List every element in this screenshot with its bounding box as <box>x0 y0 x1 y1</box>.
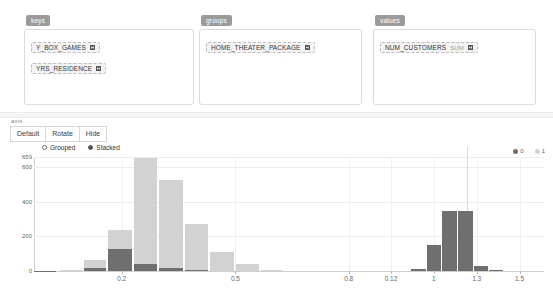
chart-container: Grouped Stacked 0 1 02004006006590.20.50… <box>0 140 553 301</box>
chart-bar[interactable] <box>210 252 233 271</box>
chart-bar[interactable] <box>108 229 131 271</box>
gridline-vertical <box>235 157 236 271</box>
radio-stacked-label: Stacked <box>96 144 120 151</box>
shelf-values-label: values <box>375 15 405 26</box>
remove-icon[interactable] <box>468 45 473 50</box>
radio-grouped-icon <box>42 145 47 150</box>
remove-icon[interactable] <box>96 66 101 71</box>
bar-segment-series-0[interactable] <box>489 270 502 271</box>
shelf-panels: keys Y_BOX_GAMES YRS_RESIDENCE groups <box>0 0 553 118</box>
bar-segment-series-0[interactable] <box>442 211 457 271</box>
chart-bar[interactable] <box>427 245 441 271</box>
remove-icon[interactable] <box>305 45 310 50</box>
bar-segment-series-1[interactable] <box>185 224 208 270</box>
shelf-keys-label: keys <box>26 15 50 26</box>
series-legend: 0 1 <box>513 148 545 154</box>
bar-segment-series-1[interactable] <box>210 252 233 271</box>
field-pill-num-customers[interactable]: NUM_CUSTOMERS SUM <box>380 42 478 53</box>
chart-bar[interactable] <box>442 211 457 271</box>
chart-bar[interactable] <box>411 269 425 271</box>
bar-segment-series-1[interactable] <box>236 264 259 271</box>
bar-segment-series-1[interactable] <box>84 260 106 268</box>
axis-toolbar: axis Default Rotate Hide <box>10 117 107 142</box>
x-axis-tick-label: 1.5 <box>515 275 524 283</box>
chart-bar[interactable] <box>134 158 157 271</box>
radio-grouped[interactable]: Grouped <box>42 144 75 151</box>
x-axis-tick-label: 1.3 <box>472 275 481 283</box>
remove-icon[interactable] <box>90 45 95 50</box>
chart-bar[interactable] <box>458 211 473 271</box>
x-axis-tick-mark <box>391 271 392 274</box>
radio-grouped-label: Grouped <box>50 144 75 151</box>
shelf-keys-dropzone[interactable]: Y_BOX_GAMES YRS_RESIDENCE <box>24 29 194 105</box>
chart-bar[interactable] <box>159 180 182 272</box>
field-pill-y-box-games[interactable]: Y_BOX_GAMES <box>31 42 100 53</box>
legend-swatch-0 <box>513 149 518 154</box>
x-axis-tick-mark <box>122 271 123 274</box>
chart-bar[interactable] <box>489 270 502 271</box>
axis-toolbar-label: axis <box>10 117 107 125</box>
bar-segment-series-0[interactable] <box>458 211 473 271</box>
bar-segment-series-0[interactable] <box>84 268 106 271</box>
shelf-keys: keys Y_BOX_GAMES YRS_RESIDENCE <box>24 9 194 105</box>
y-axis-tick-label: 659 <box>22 154 32 160</box>
chart-bar[interactable] <box>474 266 489 271</box>
field-pill-home-theater-package[interactable]: HOME_THEATER_PACKAGE <box>206 42 315 53</box>
x-axis-tick-label: 1 <box>432 275 436 283</box>
bar-segment-series-0[interactable] <box>427 245 441 271</box>
bar-segment-series-0[interactable] <box>159 268 182 271</box>
x-axis-tick-mark <box>477 271 478 274</box>
y-axis-tick-label: 200 <box>22 233 32 239</box>
y-axis-tick-label: 0 <box>29 268 32 274</box>
x-axis-tick-label: 0.2 <box>117 275 126 283</box>
chart-bar[interactable] <box>261 270 281 271</box>
shelf-values-pill-list: NUM_CUSTOMERS SUM <box>380 36 529 57</box>
field-pill-aggregation: SUM <box>450 45 464 51</box>
bar-segment-series-1[interactable] <box>108 230 131 250</box>
gridline-vertical <box>520 157 521 271</box>
field-pill-label: HOME_THEATER_PACKAGE <box>211 44 301 51</box>
gridline-vertical <box>349 157 350 271</box>
shelf-values: values NUM_CUSTOMERS SUM <box>373 9 536 105</box>
chart-bar[interactable] <box>60 270 82 271</box>
bar-segment-series-0[interactable] <box>185 270 208 271</box>
bar-segment-series-1[interactable] <box>261 270 281 271</box>
y-axis-tick-label: 600 <box>22 164 32 170</box>
bar-segment-series-0[interactable] <box>411 269 425 271</box>
shelf-groups-label: groups <box>201 15 232 26</box>
chart-bar[interactable] <box>185 224 208 271</box>
bar-segment-series-1[interactable] <box>134 158 157 264</box>
shelf-keys-pill-list: Y_BOX_GAMES <box>31 36 187 57</box>
gridline-vertical <box>391 157 392 271</box>
visualization-page: keys Y_BOX_GAMES YRS_RESIDENCE groups <box>0 0 553 301</box>
radio-stacked[interactable]: Stacked <box>88 144 120 151</box>
x-axis-tick-label: 0.5 <box>231 275 240 283</box>
plot-area: 02004006006590.20.50.80.1211.31.5 <box>34 157 544 271</box>
shelf-groups-dropzone[interactable]: HOME_THEATER_PACKAGE <box>199 29 362 105</box>
shelf-values-dropzone[interactable]: NUM_CUSTOMERS SUM <box>373 29 536 105</box>
chart-bar[interactable] <box>84 260 106 271</box>
radio-stacked-icon <box>88 145 93 150</box>
x-axis-tick-mark <box>349 271 350 274</box>
field-pill-label: NUM_CUSTOMERS <box>385 44 446 51</box>
gridline-vertical <box>477 157 478 271</box>
bar-segment-series-0[interactable] <box>134 264 157 271</box>
legend-swatch-1 <box>535 149 540 154</box>
shelf-keys-pill-list-2: YRS_RESIDENCE <box>31 57 187 78</box>
bar-segment-series-0[interactable] <box>474 266 489 271</box>
x-axis-tick-mark <box>520 271 521 274</box>
shelf-groups: groups HOME_THEATER_PACKAGE <box>199 9 362 105</box>
field-pill-yrs-residence[interactable]: YRS_RESIDENCE <box>31 63 106 74</box>
x-axis-line <box>34 271 544 272</box>
chart-bar[interactable] <box>236 264 259 271</box>
legend-item-0[interactable]: 0 <box>513 148 523 154</box>
legend-label-1: 1 <box>542 148 545 154</box>
legend-label-0: 0 <box>520 148 523 154</box>
y-axis-tick-label: 400 <box>22 199 32 205</box>
bar-segment-series-0[interactable] <box>108 249 131 271</box>
bar-segment-series-1[interactable] <box>159 180 182 269</box>
x-axis-tick-label: 0.8 <box>344 275 353 283</box>
x-axis-tick-label: 0.12 <box>385 275 398 283</box>
legend-item-1[interactable]: 1 <box>535 148 545 154</box>
bar-segment-series-0[interactable] <box>60 270 82 271</box>
